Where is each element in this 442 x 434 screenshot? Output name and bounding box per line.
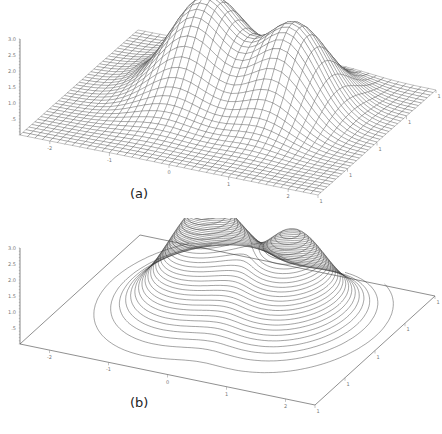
caption-b: (b)	[130, 395, 148, 410]
contour-level	[111, 245, 378, 361]
z-tick-label: 1.5	[8, 293, 16, 299]
contour-surface-plot: .51.01.52.02.53.0-2-101211111	[0, 218, 442, 434]
panel-b-contour-surface: .51.01.52.02.53.0-2-101211111 (b)	[0, 218, 442, 434]
axes: .51.01.52.02.53.0-2-101211111	[8, 245, 440, 414]
x-tick-label: 1	[227, 181, 230, 187]
z-tick-label: 1.0	[8, 100, 16, 106]
y-tick-label: 1	[319, 198, 322, 204]
x-tick-label: -1	[107, 157, 112, 163]
x-tick-label: 0	[166, 379, 169, 385]
y-tick-label: 1	[378, 146, 381, 152]
x-tick-label: -1	[106, 366, 111, 372]
x-tick-label: 1	[225, 391, 228, 397]
z-tick-label: 3.0	[8, 36, 16, 42]
panel-a-wireframe-surface: .51.01.52.02.53.0-2-101211111 (a)	[0, 0, 442, 215]
wireframe-mesh	[20, 0, 436, 195]
x-tick-label: -2	[47, 354, 52, 360]
y-tick-label: 1	[346, 381, 349, 387]
z-tick-label: 2.0	[8, 68, 16, 74]
z-tick-label: 2.5	[8, 52, 16, 58]
contour-level	[174, 218, 317, 264]
z-tick-label: .5	[11, 116, 16, 122]
x-tick-label: 2	[284, 403, 287, 409]
x-tick-label: -2	[47, 145, 52, 151]
y-tick-label: 1	[316, 408, 319, 414]
z-tick-label: 1.5	[8, 84, 16, 90]
y-tick-label: 1	[349, 172, 352, 178]
z-tick-label: 2.5	[8, 261, 16, 267]
x-tick-label: 2	[287, 193, 290, 199]
y-tick-label: 1	[408, 119, 411, 125]
x-tick-label: 0	[167, 169, 170, 175]
y-tick-label: 1	[376, 354, 379, 360]
caption-a: (a)	[130, 186, 148, 201]
z-tick-label: .5	[11, 325, 16, 331]
y-tick-label: 1	[406, 326, 409, 332]
z-tick-label: 1.0	[8, 309, 16, 315]
contour-lines	[20, 218, 435, 405]
contour-level	[131, 244, 360, 341]
z-tick-label: 3.0	[8, 245, 16, 251]
y-tick-label: 1	[436, 299, 439, 305]
contour-level	[158, 229, 333, 297]
wireframe-surface-plot: .51.01.52.02.53.0-2-101211111	[0, 0, 442, 215]
y-tick-label: 1	[437, 93, 440, 99]
z-tick-label: 2.0	[8, 277, 16, 283]
